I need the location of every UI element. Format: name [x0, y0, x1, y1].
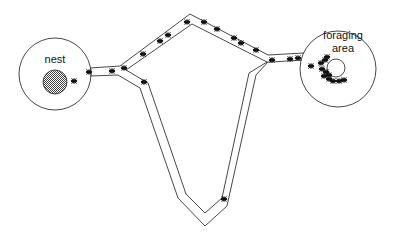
- nest-node: [19, 38, 91, 110]
- ant-nest-entrance: [71, 78, 77, 84]
- foraging-label-line1: foraging: [317, 29, 369, 41]
- nest-label: nest: [40, 53, 70, 65]
- bridge-stem-nest: [90, 66, 120, 76]
- ants-short-branch: [86, 19, 301, 75]
- foraging-label-line2: area: [327, 42, 359, 54]
- short-branch: [120, 14, 304, 70]
- ant-bridge-diagram: nest foraging area: [0, 0, 393, 236]
- ants-long-branch: [141, 79, 227, 202]
- long-branch: [118, 62, 268, 226]
